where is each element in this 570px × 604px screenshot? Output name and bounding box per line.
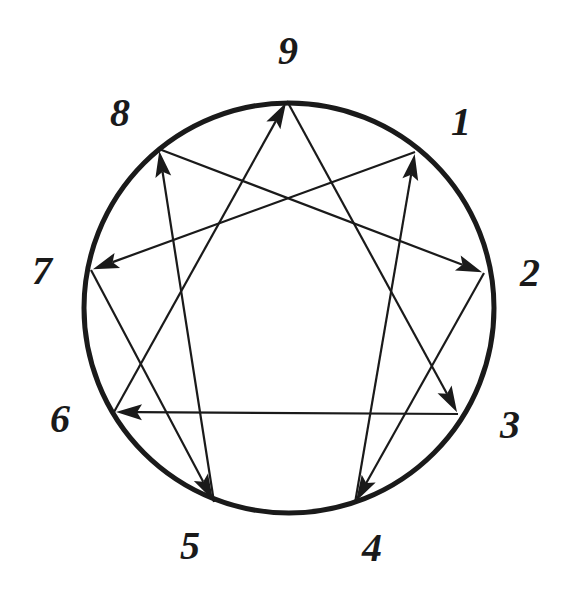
arrow-5-to-8 <box>155 151 214 502</box>
connector-line <box>91 270 203 482</box>
arrow-6-to-9 <box>114 103 286 412</box>
labels-layer: 9 1 2 3 4 5 6 7 8 <box>32 28 540 570</box>
enneagram-diagram: 9 1 2 3 4 5 6 7 8 <box>0 0 570 604</box>
point-label-4: 4 <box>361 525 382 570</box>
point-label-6: 6 <box>50 396 70 441</box>
arrowhead-icon <box>438 386 457 413</box>
point-label-5: 5 <box>180 523 200 568</box>
point-label-3: 3 <box>499 402 520 447</box>
arrow-8-to-2 <box>159 149 482 272</box>
connector-line <box>137 412 458 414</box>
connector-line <box>366 273 484 483</box>
point-label-8: 8 <box>110 90 130 135</box>
arrows-layer <box>91 101 484 503</box>
arrowhead-icon <box>266 103 286 130</box>
arrow-4-to-1 <box>355 154 418 503</box>
point-label-7: 7 <box>32 248 54 293</box>
point-label-1: 1 <box>451 99 471 144</box>
connector-line <box>114 121 276 412</box>
connector-line <box>287 101 447 394</box>
point-label-2: 2 <box>519 250 540 295</box>
point-label-9: 9 <box>278 28 298 73</box>
arrow-1-to-7 <box>93 152 415 269</box>
outer-circle <box>84 103 494 513</box>
